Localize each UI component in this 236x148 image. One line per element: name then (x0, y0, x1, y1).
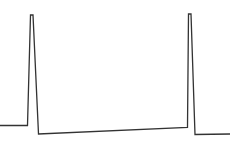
line-chart (0, 0, 236, 148)
waveform-line (0, 14, 230, 135)
